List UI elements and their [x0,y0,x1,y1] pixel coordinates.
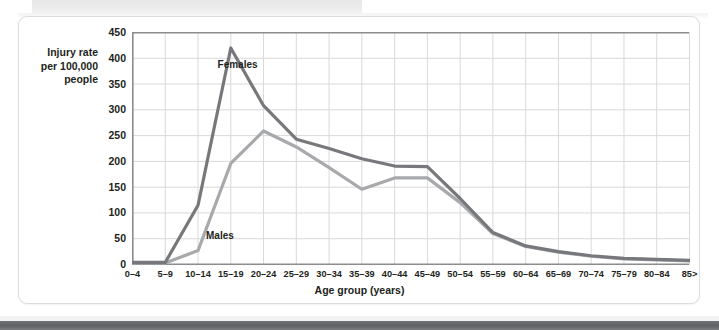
y-tick-label: 400 [90,52,126,64]
series-line-males [133,131,690,263]
series-label-females: Females [218,59,258,70]
series-label-males: Males [206,230,234,241]
y-tick-label: 100 [90,206,126,218]
y-axis-title: Injury rate per 100,000 people [20,46,98,87]
x-tick-label: 85> [668,269,712,279]
y-tick-label: 300 [90,103,126,115]
y-tick-label: 450 [90,26,126,38]
y-axis-title-line-1: Injury rate [20,46,98,60]
y-tick-label: 250 [90,129,126,141]
y-tick-label: 50 [90,232,126,244]
y-tick-label: 150 [90,181,126,193]
bottom-bar [0,321,719,330]
y-axis-title-line-2: per 100,000 [20,60,98,74]
figure-page: Injury rate per 100,000 people 050100150… [0,0,719,330]
y-tick-label: 350 [90,78,126,90]
y-axis-title-line-3: people [20,73,98,87]
x-axis-title: Age group (years) [0,284,719,296]
y-tick-label: 200 [90,155,126,167]
